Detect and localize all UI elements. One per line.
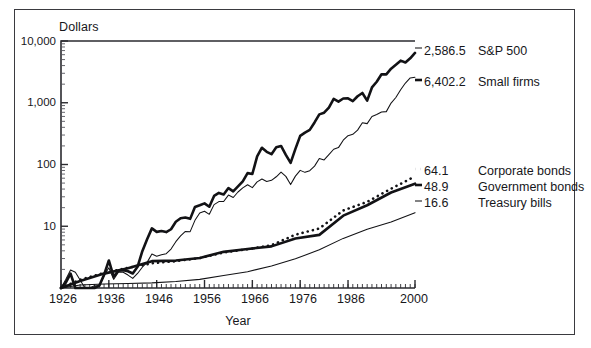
- legend-value-sp500: 2,586.5: [424, 44, 478, 58]
- legend-label-sp500: S&P 500: [478, 44, 527, 58]
- data-series-layer: [61, 53, 415, 288]
- series-line-small-firms: [61, 53, 415, 288]
- legend-entry-small-firms: 6,402.2 Small firms: [424, 75, 540, 89]
- figure-container: Dollars Year 10,000 1,000 100 10 1926 19…: [0, 0, 591, 348]
- legend: 2,586.5 S&P 500 6,402.2 Small firms 64.1…: [424, 0, 584, 348]
- legend-entry-corporate-bonds: 64.1 Corporate bonds: [424, 164, 571, 178]
- legend-value-government-bonds: 48.9: [424, 180, 478, 194]
- legend-label-small-firms: Small firms: [478, 75, 540, 89]
- legend-entry-treasury-bills: 16.6 Treasury bills: [424, 196, 552, 210]
- y-axis-major-ticks: [61, 41, 68, 226]
- legend-label-government-bonds: Government bonds: [478, 180, 584, 194]
- legend-label-treasury-bills: Treasury bills: [478, 196, 552, 210]
- legend-label-corporate-bonds: Corporate bonds: [478, 164, 571, 178]
- legend-leader-lines: [415, 48, 422, 201]
- legend-value-small-firms: 6,402.2: [424, 75, 478, 89]
- series-line-government-bonds: [61, 184, 415, 288]
- legend-value-corporate-bonds: 64.1: [424, 164, 478, 178]
- legend-entry-government-bonds: 48.9 Government bonds: [424, 180, 584, 194]
- legend-entry-sp500: 2,586.5 S&P 500: [424, 44, 527, 58]
- legend-value-treasury-bills: 16.6: [424, 196, 478, 210]
- series-line-s-p-500: [61, 77, 415, 288]
